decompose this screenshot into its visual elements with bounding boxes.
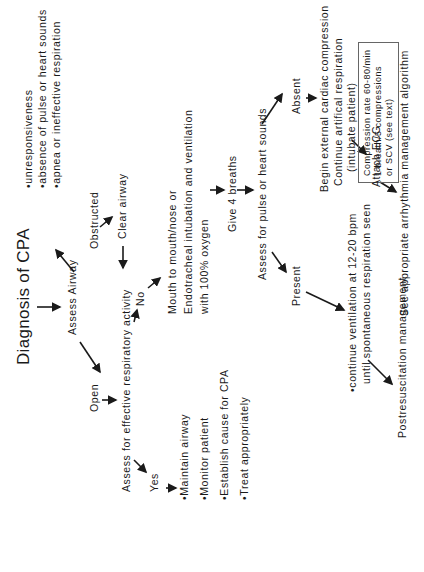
criterion: •unresponsiveness xyxy=(22,89,34,188)
ventilation-line: Endotracheal intubation and ventilation xyxy=(182,110,194,314)
compression-line: or SCV (see text) xyxy=(384,49,395,176)
ventilation-line: with 100% oxygen xyxy=(198,219,210,314)
ventilation-line: Mouth to mouth/nose or xyxy=(166,190,178,314)
obstructed-node: Obstructed xyxy=(88,192,100,249)
diagram-title: Diagnosis of CPA xyxy=(18,228,30,365)
cpa-flowchart: Diagnosis of CPA •unresponsiveness •abse… xyxy=(0,0,424,572)
no-node: No xyxy=(134,291,146,306)
action-item: •Monitor patient xyxy=(198,417,210,500)
criterion: •absence of pulse or heart sounds xyxy=(36,9,48,188)
absent-action-line: Begin external cardiac compression xyxy=(318,5,330,192)
action-item: •Establish cause for CPA xyxy=(218,369,230,500)
yes-node: Yes xyxy=(148,473,160,492)
open-node: Open xyxy=(88,384,100,412)
absent-action-line: (intubate patient) xyxy=(345,82,357,172)
give-breaths-node: Give 4 breaths xyxy=(226,155,238,232)
assess-respiratory-node: Assess for effective respiratory activit… xyxy=(120,289,132,492)
arrhythmia-node: See appropriate arrhythmia management al… xyxy=(398,50,410,316)
criterion: •apnea or ineffective respiration xyxy=(50,21,62,188)
assess-airway-node: Assess Airway xyxy=(66,260,78,336)
clear-airway-node: Clear airway xyxy=(116,173,128,239)
present-node: Present xyxy=(290,266,302,306)
assess-pulse-node: Assess for pulse or heart sounds xyxy=(256,108,268,280)
attach-ecg-node: Attach ECG xyxy=(370,126,382,187)
action-item: •Maintain airway xyxy=(178,414,190,500)
action-item: •Treat appropriately xyxy=(238,397,250,500)
continue-line: •continue ventilation at 12-20 bpm xyxy=(346,213,358,392)
absent-node: Absent xyxy=(290,78,302,114)
absent-action-line: Continue artifical respiration xyxy=(332,38,344,186)
continue-line: until spontaneous respiration seen xyxy=(360,204,372,384)
